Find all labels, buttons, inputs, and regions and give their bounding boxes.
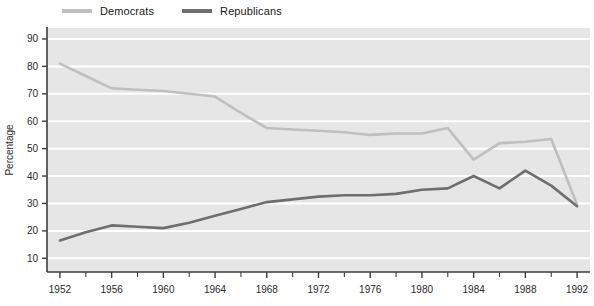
x-tick-label: 1976	[359, 284, 382, 295]
x-tick-label: 1972	[307, 284, 330, 295]
chart-canvas: 102030405060708090Percentage195219561960…	[0, 0, 594, 306]
x-tick-label: 1952	[49, 284, 72, 295]
x-tick-label: 1956	[101, 284, 124, 295]
y-axis-title: Percentage	[4, 124, 15, 176]
y-tick-label: 30	[27, 198, 39, 209]
y-tick-label: 70	[27, 88, 39, 99]
y-tick-label: 80	[27, 61, 39, 72]
x-tick-label: 1992	[566, 284, 589, 295]
y-tick-label: 60	[27, 116, 39, 127]
x-tick-label: 1980	[411, 284, 434, 295]
x-tick-label: 1988	[514, 284, 537, 295]
y-tick-label: 20	[27, 225, 39, 236]
y-tick-label: 40	[27, 171, 39, 182]
y-tick-label: 90	[27, 33, 39, 44]
plot-area-background	[47, 28, 590, 272]
x-tick-label: 1964	[204, 284, 227, 295]
y-tick-label: 10	[27, 253, 39, 264]
y-tick-label: 50	[27, 143, 39, 154]
x-tick-label: 1960	[152, 284, 175, 295]
x-tick-label: 1984	[463, 284, 486, 295]
line-chart: Democrats Republicans 102030405060708090…	[0, 0, 594, 306]
x-tick-label: 1968	[256, 284, 279, 295]
